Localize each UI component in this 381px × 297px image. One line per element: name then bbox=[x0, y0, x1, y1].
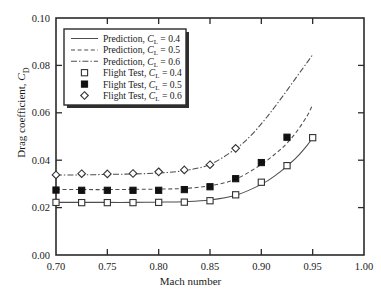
data-point-1-5 bbox=[181, 186, 187, 192]
data-point-0-10 bbox=[310, 135, 316, 141]
legend-sample-open-square bbox=[81, 70, 87, 76]
data-point-0-1 bbox=[79, 200, 85, 206]
x-axis-tick-label-5: 0.95 bbox=[303, 261, 321, 272]
x-axis-tick-label-2: 0.80 bbox=[149, 261, 167, 272]
data-point-0-2 bbox=[104, 200, 110, 206]
y-axis-tick-label-5: 0.10 bbox=[32, 13, 50, 24]
data-point-2-6 bbox=[206, 161, 214, 169]
y-axis-label-symbol: C bbox=[15, 73, 27, 80]
data-point-0-0 bbox=[53, 199, 59, 205]
x-axis-tick-label-1: 0.75 bbox=[98, 261, 116, 272]
data-point-2-1 bbox=[78, 170, 86, 178]
y-axis-tick-label-4: 0.08 bbox=[32, 60, 50, 71]
data-point-0-6 bbox=[207, 198, 213, 204]
data-point-2-2 bbox=[104, 170, 112, 178]
data-point-1-2 bbox=[104, 187, 110, 193]
data-point-1-9 bbox=[284, 134, 290, 140]
y-axis-tick-label-3: 0.06 bbox=[32, 107, 50, 118]
data-point-0-7 bbox=[233, 192, 239, 198]
data-point-1-8 bbox=[258, 159, 264, 165]
y-axis-tick-label-2: 0.04 bbox=[32, 155, 51, 166]
data-point-2-3 bbox=[129, 170, 137, 178]
data-point-1-3 bbox=[130, 187, 136, 193]
data-point-0-3 bbox=[130, 200, 136, 206]
legend-sample-filled-square bbox=[81, 81, 87, 87]
data-point-1-7 bbox=[233, 176, 239, 182]
drag-coefficient-chart: 0.700.750.800.850.900.951.000.000.020.04… bbox=[0, 0, 381, 297]
x-axis-tick-label-6: 1.00 bbox=[355, 261, 373, 272]
plot-canvas: 0.700.750.800.850.900.951.000.000.020.04… bbox=[0, 0, 381, 297]
y-axis-label: Drag coefficient, CD bbox=[15, 38, 30, 188]
y-axis-tick-label-0: 0.00 bbox=[32, 250, 50, 261]
data-point-2-5 bbox=[181, 166, 189, 174]
x-axis-tick-label-4: 0.90 bbox=[252, 261, 270, 272]
x-axis-label: Mach number bbox=[0, 275, 381, 287]
y-axis-label-text: Drag coefficient, bbox=[15, 81, 27, 158]
data-point-1-4 bbox=[156, 187, 162, 193]
data-point-0-4 bbox=[156, 199, 162, 205]
x-axis-tick-label-3: 0.85 bbox=[201, 261, 219, 272]
data-point-2-4 bbox=[155, 168, 163, 176]
y-axis-label-subscript: D bbox=[22, 67, 31, 73]
data-point-0-5 bbox=[181, 199, 187, 205]
data-point-1-1 bbox=[79, 187, 85, 193]
data-point-1-0 bbox=[53, 187, 59, 193]
data-point-0-9 bbox=[284, 163, 290, 169]
y-axis-tick-label-1: 0.02 bbox=[32, 202, 50, 213]
data-point-1-6 bbox=[207, 184, 213, 190]
x-axis-tick-label-0: 0.70 bbox=[47, 261, 65, 272]
data-point-2-0 bbox=[52, 171, 60, 179]
data-point-2-7 bbox=[232, 145, 240, 153]
data-point-0-8 bbox=[258, 179, 264, 185]
